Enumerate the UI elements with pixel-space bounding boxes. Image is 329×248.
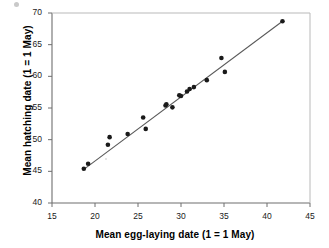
data-point: [86, 161, 91, 166]
data-point: [223, 70, 228, 75]
data-point: [143, 127, 148, 132]
data-point: [82, 167, 87, 172]
data-point: [192, 85, 197, 90]
data-point: [141, 115, 146, 120]
scatter-plot-figure: Mean hatching date (1 = 1 May) Mean egg-…: [0, 0, 329, 248]
data-point: [219, 56, 224, 61]
data-point: [164, 102, 169, 107]
plot-canvas: [0, 0, 329, 248]
data-point: [187, 87, 192, 92]
plot-frame: [52, 13, 310, 203]
scan-speck-mid: [105, 158, 107, 160]
data-point: [125, 132, 130, 137]
data-point: [179, 94, 184, 99]
scan-speck-top: [14, 2, 19, 7]
data-point: [205, 78, 210, 83]
data-point: [106, 142, 111, 147]
y-axis-ticks: [48, 13, 52, 203]
data-point: [107, 135, 112, 140]
data-point: [280, 19, 285, 24]
data-point: [170, 105, 175, 110]
x-axis-ticks: [52, 203, 310, 207]
